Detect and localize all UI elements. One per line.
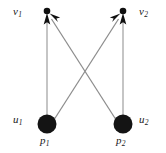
node-label-p1: p1 [40, 135, 49, 146]
node-label-u1-sub: 1 [19, 118, 23, 127]
node-label-v2-sub: 2 [144, 10, 148, 19]
node-p2 [114, 115, 133, 134]
node-v1 [44, 8, 51, 15]
node-label-p1-sub: 1 [46, 139, 50, 148]
node-p1 [38, 115, 57, 134]
node-label-u2: u2 [139, 114, 148, 125]
edge-p2-v1 [52, 19, 116, 119]
node-label-p1-base: p [40, 134, 46, 146]
node-label-p2: p2 [116, 135, 125, 146]
node-label-u2-base: u [139, 113, 145, 125]
node-label-p2-sub: 2 [122, 139, 126, 148]
node-label-v1-sub: 1 [18, 10, 22, 19]
graph-canvas [0, 0, 166, 153]
arrowhead-p2-v1 [50, 13, 61, 22]
node-label-u1: u1 [13, 114, 22, 125]
node-label-v1: v1 [13, 6, 22, 17]
edge-p1-v2 [55, 19, 119, 119]
node-v2 [120, 8, 127, 15]
graph-figure: v1 v2 u1 u2 p1 p2 [0, 0, 166, 153]
node-label-u1-base: u [13, 113, 19, 125]
node-label-u2-sub: 2 [145, 118, 149, 127]
node-label-p2-base: p [116, 134, 122, 146]
node-label-v2: v2 [139, 6, 148, 17]
arrowhead-p1-v2 [110, 13, 121, 22]
